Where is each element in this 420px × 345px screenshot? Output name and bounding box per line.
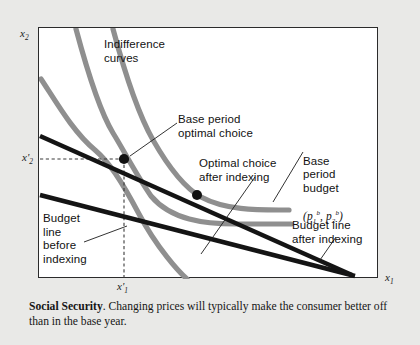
x-axis-tick-label-x1-prime: x'1	[117, 281, 128, 295]
annotation-indifference-curves: Indifference curves	[104, 38, 165, 65]
dot-optimal-choice-after-indexing	[192, 190, 202, 200]
annotation-base-period-optimal-choice: Base period optimal choice	[178, 113, 253, 140]
figure-caption: Social Security. Changing prices will ty…	[29, 299, 399, 330]
annotation-optimal-choice-after-indexing: Optimal choice after indexing	[199, 157, 276, 184]
y-axis-label: x2	[20, 28, 29, 42]
leader-base-period-optimal-choice	[130, 123, 177, 156]
leader-budget-line-before-indexing	[84, 226, 127, 242]
leader-base-period-budget	[273, 152, 303, 202]
annotation-budget-line-before-indexing: Budget line before indexing	[43, 212, 87, 266]
dot-base-period-optimal-choice	[119, 154, 129, 164]
annotation-base-period-budget-text: Base period budget	[303, 155, 339, 194]
y-axis-tick-label-x2-prime: x'2	[22, 152, 33, 166]
annotation-budget-line-after-indexing: Budget line after indexing	[292, 219, 362, 246]
x-axis-label: x1	[385, 272, 394, 286]
caption-title: Social Security	[29, 300, 103, 313]
